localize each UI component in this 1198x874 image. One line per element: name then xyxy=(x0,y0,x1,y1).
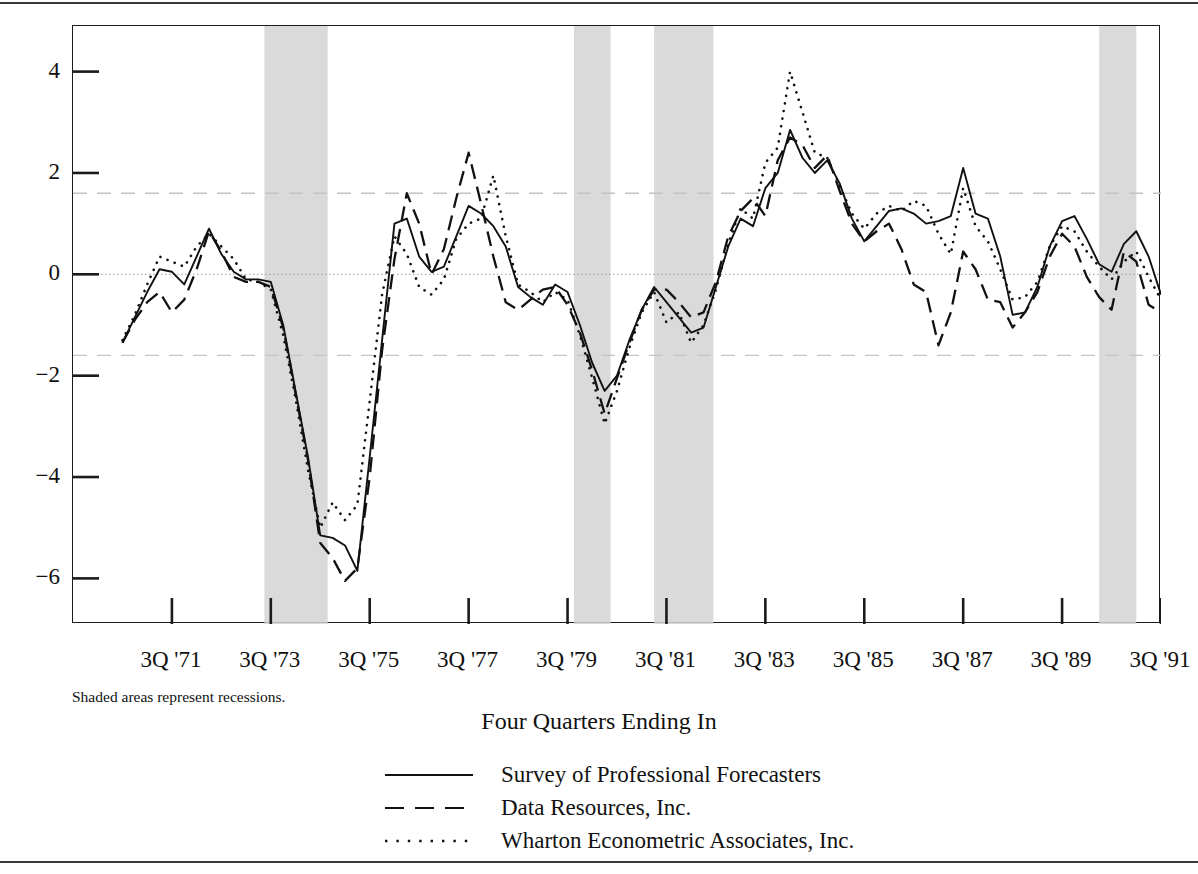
recession-band-4 xyxy=(1099,26,1136,624)
solid-line-key xyxy=(383,767,475,783)
y-tick-label--6: −6 xyxy=(20,565,60,588)
x-tick-label-10: 3Q '91 xyxy=(1100,648,1198,671)
bottom-divider-rule xyxy=(0,861,1198,863)
legend-label-dri: Data Resources, Inc. xyxy=(501,795,691,821)
top-divider-rule xyxy=(0,2,1198,4)
chart-legend: Survey of Professional Forecasters Data … xyxy=(383,758,854,857)
y-tick-label-4: 4 xyxy=(20,59,60,82)
y-tick-label-2: 2 xyxy=(20,160,60,183)
plot-area xyxy=(72,25,1160,623)
figure-panel: 420−2−4−6 3Q '713Q '733Q '753Q '773Q '79… xyxy=(0,0,1198,874)
chart-svg xyxy=(73,26,1161,624)
dashed-line-key xyxy=(383,800,475,816)
x-axis-title: Four Quarters Ending In xyxy=(0,708,1198,735)
y-tick-label-0: 0 xyxy=(20,261,60,284)
legend-label-wharton: Wharton Econometric Associates, Inc. xyxy=(501,828,854,854)
y-tick-label--2: −2 xyxy=(20,363,60,386)
y-tick-label--4: −4 xyxy=(20,464,60,487)
recession-note: Shaded areas represent recessions. xyxy=(72,688,285,706)
legend-item-wharton: Wharton Econometric Associates, Inc. xyxy=(383,824,854,857)
dotted-line-key xyxy=(383,833,475,849)
legend-item-survey: Survey of Professional Forecasters xyxy=(383,758,854,791)
legend-label-survey: Survey of Professional Forecasters xyxy=(501,762,821,788)
legend-item-dri: Data Resources, Inc. xyxy=(383,791,854,824)
